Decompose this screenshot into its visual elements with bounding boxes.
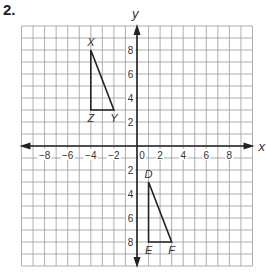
y-tick-label: 4 [128, 189, 134, 200]
y-tick-label: 4 [128, 93, 134, 104]
y-tick-label: 6 [128, 213, 134, 224]
x-axis-label: x [258, 139, 266, 154]
vertex-label: E [145, 244, 153, 256]
y-tick-label: 2 [128, 165, 134, 176]
x-tick-label: −2 [108, 150, 120, 161]
vertex-label: X [86, 36, 95, 48]
y-tick-label: 6 [128, 69, 134, 80]
x-tick-label: 0 [139, 150, 145, 161]
vertex-label: D [145, 168, 153, 180]
y-axis-label: y [131, 6, 140, 21]
x-tick-label: 4 [180, 150, 186, 161]
x-tick-label: 2 [157, 150, 163, 161]
y-tick-label: 8 [128, 45, 134, 56]
x-tick-label: −8 [39, 150, 51, 161]
x-tick-label: 8 [227, 150, 233, 161]
vertex-label: Y [110, 112, 118, 124]
y-tick-label: 8 [128, 237, 134, 248]
x-tick-label: 6 [204, 150, 210, 161]
axes [20, 24, 255, 268]
y-tick-label: 2 [128, 117, 134, 128]
x-tick-label: −4 [85, 150, 97, 161]
vertex-label: Z [86, 112, 95, 124]
coordinate-plane: −8−6−4−20246886422468 XYZDEF x y [0, 0, 266, 272]
x-tick-label: −6 [62, 150, 74, 161]
